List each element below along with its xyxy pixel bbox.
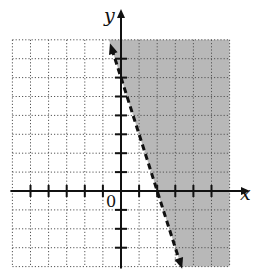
y-axis-label: y	[103, 4, 115, 26]
origin-label: 0	[106, 192, 116, 211]
inequality-graph: x y 0	[0, 0, 263, 280]
x-axis-label: x	[240, 182, 251, 204]
